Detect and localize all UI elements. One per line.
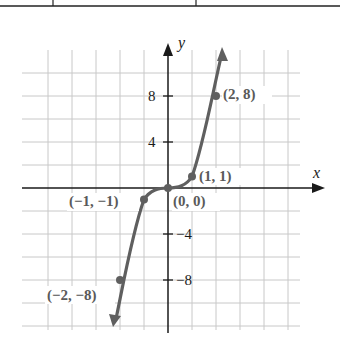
- point-2-8: [212, 92, 220, 100]
- point-0-0: [164, 184, 172, 192]
- y-tick-label-neg8: −8: [176, 272, 192, 288]
- y-tick-label-neg4: −4: [176, 226, 192, 242]
- y-axis: y: [163, 34, 186, 333]
- y-axis-arrow-icon: [163, 43, 173, 56]
- curve-arrow-up-icon: [217, 47, 228, 61]
- y-axis-label: y: [176, 34, 186, 52]
- point-1-1: [188, 173, 196, 181]
- x-axis-label: x: [312, 164, 320, 181]
- point-label-neg1-neg1: (−1, −1): [69, 193, 119, 210]
- point-neg2-neg8: [116, 276, 124, 284]
- point-label-2-8: (2, 8): [223, 86, 256, 103]
- point-label-neg2-neg8: (−2, −8): [47, 287, 97, 304]
- y-tick-label-8: 8: [148, 88, 156, 104]
- table-border-top: [0, 0, 340, 6]
- point-label-0-0: (0, 0): [173, 193, 206, 210]
- y-tick-label-4: 4: [148, 134, 156, 150]
- point-label-1-1: (1, 1): [199, 168, 232, 185]
- cubic-function-graph: x y 8 4 −4 −8 (−2, −8) (−1, −1) (0, 0) (…: [0, 0, 340, 355]
- curve-arrow-down-icon: [109, 314, 121, 327]
- x-axis-arrow-icon: [312, 183, 325, 193]
- point-neg1-neg1: [140, 196, 148, 204]
